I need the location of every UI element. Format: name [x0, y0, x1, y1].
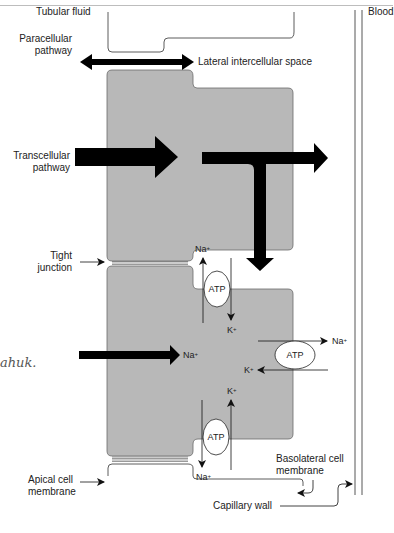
tubular-lumen-line [108, 12, 294, 52]
tight-junction-label: Tight junction [20, 250, 72, 274]
basolateral-pointer [298, 480, 313, 493]
pump-bottom-na-label: Na+ [196, 472, 211, 482]
apical-junction-lines [112, 457, 188, 462]
na-entry-label: Na+ [183, 350, 198, 360]
capillary-wall-pointer [280, 484, 352, 506]
pump-right-atp-label: ATP [275, 350, 315, 360]
pump-top-atp-label: ATP [204, 284, 230, 294]
pump-bottom-atp-label: ATP [203, 432, 229, 442]
lower-cell [107, 266, 293, 456]
lateral-space-label: Lateral intercellular space [198, 56, 312, 68]
tubular-fluid-label: Tubular fluid [36, 6, 91, 18]
apical-membrane-label: Apical cell membrane [28, 474, 76, 498]
paracellular-label: Paracellular pathway [14, 33, 72, 57]
pump-bottom-k-label: K+ [227, 386, 237, 396]
paracellular-arrow-icon [80, 54, 194, 70]
pump-top-na-label: Na+ [195, 244, 210, 254]
pump-top-k-label: K+ [227, 325, 237, 335]
blood-label: Blood [368, 6, 394, 18]
pump-right-na-label: Na+ [332, 336, 347, 346]
basolateral-membrane-label: Basolateral cell membrane [276, 453, 344, 477]
tight-junction-lines [112, 262, 188, 265]
capillary-wall-label: Capillary wall [213, 500, 272, 512]
handwritten-annotation: ahuk. [0, 355, 37, 370]
pump-right-k-label: K+ [244, 365, 254, 375]
transcellular-label: Transcellular pathway [8, 150, 70, 174]
